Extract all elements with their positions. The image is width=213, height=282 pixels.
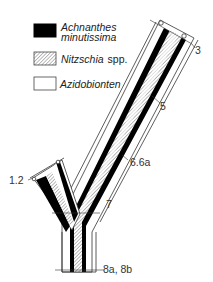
- station-label-8a-8b: 8a, 8b: [103, 263, 132, 275]
- legend-swatch-achnanthes: [34, 24, 56, 37]
- legend-label-achnanthes-2: minutissima: [61, 31, 117, 43]
- legend-swatch-nitzschia: [34, 52, 56, 65]
- station-label-3: 3: [195, 44, 201, 56]
- river-diatom-diagram: Achnanthes minutissima Nitzschiaspp. Azi…: [0, 0, 213, 282]
- station-label-7: 7: [106, 198, 112, 210]
- tributary-channel: [30, 158, 80, 232]
- legend-label-nitzschia: Nitzschiaspp.: [61, 53, 127, 65]
- legend-swatch-azidobionten: [34, 77, 56, 90]
- legend-label-azidobionten: Azidobionten: [59, 78, 121, 90]
- legend: Achnanthes minutissima Nitzschiaspp. Azi…: [34, 21, 127, 90]
- station-label-6-6a: 6.6a: [130, 156, 151, 168]
- station-label-5: 5: [160, 100, 166, 112]
- station-label-1-2: 1.2: [9, 174, 24, 186]
